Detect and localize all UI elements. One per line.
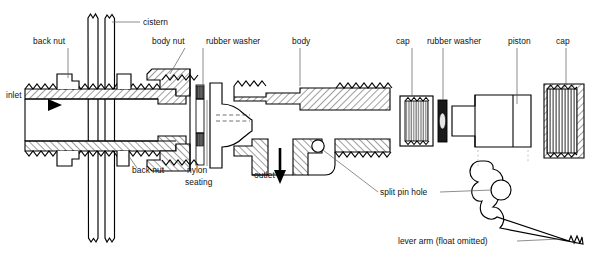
lever-arm-part — [470, 161, 583, 244]
valve-body — [234, 81, 392, 175]
label-outlet: outlet — [254, 170, 275, 180]
outlet-arrow — [274, 148, 286, 184]
cap-right — [544, 84, 584, 158]
label-rubber-washer-1: rubber washer — [206, 36, 260, 46]
label-back-nut-top: back nut — [33, 36, 66, 46]
piston-part — [452, 95, 531, 147]
cap-left — [400, 96, 433, 146]
inlet-arrow — [22, 99, 62, 111]
label-lever-arm: lever arm (float omitted) — [398, 236, 488, 246]
diagram-canvas: cistern back nut body nut rubber washer … — [0, 0, 589, 257]
label-cistern: cistern — [143, 17, 168, 27]
washer-2 — [438, 100, 447, 142]
label-seating: seating — [185, 177, 213, 187]
label-back-nut-bottom: back nut — [132, 165, 165, 175]
ballvalve-diagram: cistern back nut body nut rubber washer … — [0, 0, 589, 257]
label-body-nut: body nut — [152, 36, 185, 46]
label-split-pin-hole: split pin hole — [380, 187, 428, 197]
label-nylon: nylon — [187, 165, 208, 175]
washer-1 — [196, 85, 204, 165]
label-inlet: inlet — [6, 90, 22, 100]
label-cap-2: cap — [556, 36, 570, 46]
label-body: body — [292, 36, 311, 46]
label-cap-1: cap — [396, 36, 410, 46]
body-nut-part — [147, 69, 198, 171]
label-rubber-washer-2: rubber washer — [427, 36, 481, 46]
label-piston: piston — [508, 36, 531, 46]
cistern-wall — [88, 14, 115, 242]
